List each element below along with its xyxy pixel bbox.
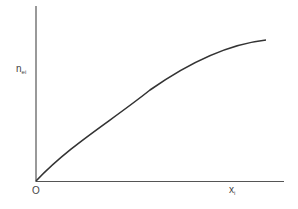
y-axis-label: nei: [16, 64, 26, 75]
x-axis-label-subscript: i: [234, 190, 235, 196]
data-curve: [36, 40, 266, 181]
chart-canvas: [0, 0, 298, 209]
x-axis-label: xi: [229, 185, 235, 196]
origin-label: O: [32, 186, 40, 196]
y-axis-label-subscript: ei: [22, 69, 27, 75]
